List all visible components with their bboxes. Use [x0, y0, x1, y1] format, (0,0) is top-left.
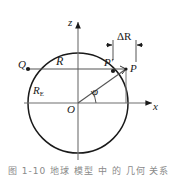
point-Q-dot: [26, 67, 30, 71]
origin-label: O: [67, 104, 75, 115]
figure-container: z x O Q P′ P R RE φ ΔR 图 1-10 地球 模型 中 的 …: [0, 0, 169, 175]
x-axis-label: x: [153, 101, 158, 112]
point-Q-label: Q: [18, 59, 26, 70]
figure-caption: 图 1-10 地球 模型 中 的 几何 关系: [8, 166, 169, 175]
figure-caption-strip: 图 1-10 地球 模型 中 的 几何 关系: [0, 166, 169, 175]
angle-phi-label: φ: [92, 86, 98, 97]
radius-line-OP: [78, 69, 126, 103]
point-P-label: P: [130, 63, 137, 74]
base-radius-label: RE: [33, 85, 44, 97]
z-axis-label: z: [68, 17, 72, 28]
point-P-prime-dot: [111, 69, 115, 73]
delta-r-label: ΔR: [117, 31, 131, 42]
diagram-canvas: [0, 0, 169, 175]
point-P-prime-label: P′: [104, 57, 113, 68]
base-radius-symbol: R: [33, 84, 40, 96]
chord-length-label: R: [56, 55, 63, 67]
base-radius-subscript: E: [40, 90, 44, 97]
